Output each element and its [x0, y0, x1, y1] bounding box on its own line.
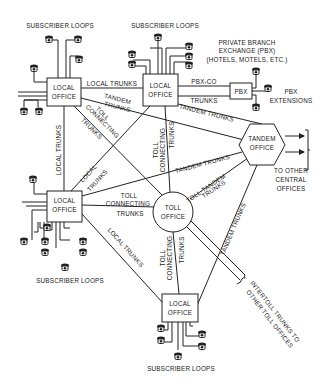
telephone-icon: [35, 108, 43, 115]
pbx-node: PBX: [230, 83, 252, 99]
node-label: OFFICE: [148, 91, 172, 98]
node-label: LOCAL: [53, 84, 75, 91]
edge-label-toll-connecting: TOLL: [152, 141, 159, 158]
telephone-icon: [128, 61, 136, 68]
telephone-icon: [185, 43, 193, 50]
node-label: OFFICE: [168, 309, 192, 316]
edge-label-local-trunks: LOCAL TRUNKS: [87, 80, 137, 87]
other-co-brace: [305, 130, 310, 170]
intertoll-label: INTERTOLL TRUNKS TO: [249, 279, 301, 343]
node-label: LOCAL: [169, 300, 191, 307]
telephone-icon: [79, 238, 87, 245]
local-office-n: LOCAL OFFICE: [143, 74, 178, 106]
edge-label-pbx-co: TRUNKS: [190, 97, 217, 104]
local-office-nw: LOCAL OFFICE: [47, 78, 81, 106]
telephone-icon: [79, 249, 87, 256]
node-label: TOLL: [165, 204, 182, 211]
node-label: LOCAL: [54, 197, 76, 204]
node-label: OFFICE: [161, 213, 185, 220]
edge-label-toll-connecting: TRUNKS: [178, 236, 185, 263]
telephone-icon: [45, 36, 53, 43]
telephone-icon: [157, 337, 165, 344]
subscriber-loops-label: SUBSCRIBER LOOPS: [131, 22, 199, 29]
subscriber-loops-w: [20, 176, 87, 271]
node-label: OFFICE: [250, 144, 274, 151]
pbx-title: EXCHANGE (PBX): [219, 47, 276, 55]
telephone-icon: [198, 331, 206, 338]
edge-label-tandem-trunks: TANDEM TRUNKS: [174, 153, 230, 174]
telephone-icon: [41, 249, 49, 256]
subscriber-loops-n: [128, 34, 193, 75]
edge-label-tandem-trunks: TANDEM TRUNKS: [218, 202, 246, 257]
edge-label-toll-connecting: CONNECTING: [159, 128, 166, 172]
telephone-icon: [30, 65, 38, 72]
edge-label-toll-connecting: TOLL: [121, 192, 138, 199]
local-office-w: LOCAL OFFICE: [47, 191, 82, 222]
node-label: TANDEM: [248, 135, 275, 142]
telephone-icon: [61, 264, 69, 271]
pbx-extensions-label: EXTENSIONS: [270, 97, 313, 104]
telephone-icon: [252, 68, 260, 75]
edge-label-local-trunks: LOCAL TRUNKS: [55, 125, 62, 175]
node-label: PBX: [234, 88, 248, 95]
telephone-icon: [185, 62, 193, 69]
pbx-extensions-label: PBX: [284, 88, 298, 95]
node-label: OFFICE: [52, 93, 76, 100]
subscriber-loops-label: SUBSCRIBER LOOPS: [36, 277, 104, 284]
edge-label-toll-connecting: TRUNKS: [168, 121, 175, 148]
local-trunk-line-sw: [82, 214, 162, 302]
intertoll-brace: [237, 275, 245, 284]
telephone-icon: [43, 224, 51, 231]
edge-label-tandem-trunks: TANDEM TRUNKS: [178, 102, 234, 122]
telephone-icon: [157, 325, 165, 332]
edge-label-toll-connecting: TRUNKS: [116, 210, 143, 217]
telephone-icon: [29, 176, 37, 183]
node-label: OFFICE: [52, 206, 76, 213]
subscriber-loops-s: [157, 322, 206, 360]
telephone-icon: [20, 108, 28, 115]
edge-label-toll-connecting: CONNECTING: [106, 200, 150, 207]
pbx-title: (HOTELS, MOTELS, ETC.): [206, 56, 287, 64]
intertoll-line-2: [191, 221, 245, 275]
telephone-icon: [198, 343, 206, 350]
node-label: LOCAL: [150, 82, 172, 89]
telephone-icon: [41, 238, 49, 245]
other-offices-label: CENTRAL: [276, 176, 307, 183]
edge-label-toll-connecting: TOLL: [159, 249, 166, 266]
telephone-icon: [185, 53, 193, 60]
telephone-network-diagram: LOCAL OFFICE LOCAL OFFICE PBX TANDEM OFF…: [0, 0, 330, 391]
telephone-icon: [252, 104, 260, 111]
telephone-icon: [20, 238, 28, 245]
local-office-s: LOCAL OFFICE: [162, 294, 198, 322]
telephone-icon: [74, 36, 82, 43]
telephone-icon: [264, 85, 272, 92]
pbx-extensions: [252, 68, 272, 111]
telephone-icon: [128, 51, 136, 58]
edge-label-toll-connecting: CONNECTING: [166, 236, 173, 280]
other-offices-label: OFFICES: [277, 185, 306, 192]
telephone-icon: [75, 56, 83, 63]
edge-label-pbx-co: PBX-CO: [191, 78, 216, 85]
telephone-icon: [174, 353, 182, 360]
subscriber-loops-label: SUBSCRIBER LOOPS: [26, 22, 94, 29]
telephone-icon: [154, 34, 162, 41]
subscriber-loops-label: SUBSCRIBER LOOPS: [147, 365, 215, 372]
pbx-title: PRIVATE BRANCH: [218, 39, 275, 46]
other-offices-label: TO OTHER: [274, 167, 308, 174]
tandem-office: TANDEM OFFICE: [239, 124, 285, 165]
